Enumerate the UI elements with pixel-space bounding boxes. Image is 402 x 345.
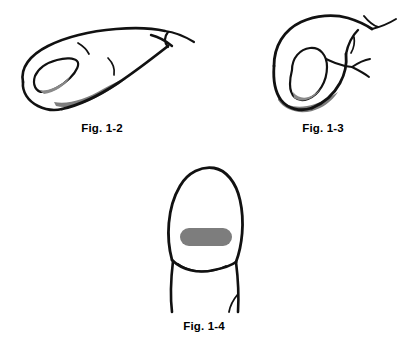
finger-pad-shade	[180, 228, 232, 246]
knuckle-crease-upper	[165, 31, 194, 42]
figure-1-2: Fig. 1-2	[4, 10, 200, 150]
knuckle-crease-barb	[151, 35, 172, 46]
figure-1-4-artwork	[126, 160, 282, 320]
joint-crease-mid	[108, 58, 114, 75]
joint-crease-top	[78, 43, 89, 54]
knuckle-crease-upper	[372, 19, 396, 29]
figure-1-4: Fig. 1-4	[126, 160, 282, 345]
finger-outline-underside	[62, 46, 168, 109]
side-crease-fork	[229, 294, 238, 312]
figure-1-2-caption: Fig. 1-2	[4, 122, 200, 134]
figure-1-3-caption: Fig. 1-3	[248, 122, 398, 134]
figure-1-2-artwork	[4, 10, 200, 122]
joint-crease-branch-down	[352, 67, 369, 77]
knuckle-crease-barb-2	[165, 32, 168, 47]
joint-crease-branch-up	[352, 59, 370, 67]
figure-sheet: Fig. 1-2	[0, 0, 402, 345]
figure-1-4-caption: Fig. 1-4	[126, 320, 282, 332]
figure-1-3-artwork	[248, 4, 398, 122]
fingernail	[290, 48, 327, 100]
finger-outline-tip	[168, 168, 242, 262]
finger-outline-left-shaft	[171, 261, 173, 312]
finger-outline-right-shaft	[236, 262, 238, 312]
figure-1-3: Fig. 1-3	[248, 4, 398, 150]
